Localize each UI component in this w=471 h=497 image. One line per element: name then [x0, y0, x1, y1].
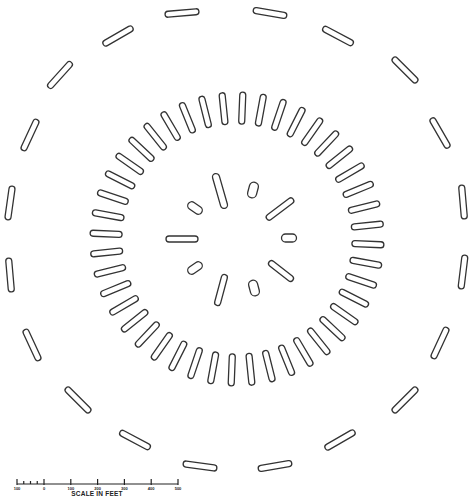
- scale-tick-label: 500: [175, 486, 182, 491]
- outer-ring-slit: [102, 25, 134, 47]
- middle-ring-slit: [351, 221, 383, 230]
- middle-ring-slit: [228, 354, 235, 386]
- middle-ring-slit: [187, 347, 203, 379]
- middle-ring-slit: [314, 130, 340, 157]
- middle-ring-slit: [319, 316, 346, 342]
- middle-ring-slit: [115, 152, 145, 175]
- scale-bar: 1000100200300400500 SCALE IN FEET: [14, 479, 182, 497]
- middle-ring-slit: [104, 170, 135, 190]
- outer-ring-slit: [391, 386, 419, 414]
- middle-ring-slit: [128, 136, 155, 162]
- middle-ring-slit: [239, 92, 246, 124]
- middle-ring-slit: [168, 340, 188, 371]
- inner-feature: [186, 260, 204, 276]
- outer-ring-slit: [458, 255, 468, 289]
- middle-ring-slit: [246, 353, 255, 385]
- inner-feature: [265, 197, 295, 222]
- middle-ring: [90, 92, 384, 386]
- inner-feature: [214, 274, 228, 306]
- middle-ring-slit: [329, 303, 359, 326]
- outer-ring-slit: [20, 118, 40, 151]
- middle-ring-slit: [348, 200, 380, 214]
- inner-feature: [282, 234, 297, 242]
- middle-ring-slit: [94, 264, 126, 278]
- middle-ring-slit: [338, 288, 369, 308]
- middle-ring-slit: [325, 145, 354, 170]
- middle-ring-slit: [120, 308, 149, 333]
- middle-ring-slit: [207, 352, 219, 385]
- outer-ring-slit: [46, 60, 73, 89]
- outer-ring-slit: [183, 461, 218, 472]
- middle-ring-slit: [301, 117, 324, 147]
- middle-ring-slit: [286, 106, 306, 137]
- middle-ring-slit: [345, 273, 377, 289]
- middle-ring-slit: [271, 99, 287, 131]
- middle-ring-slit: [143, 122, 168, 151]
- middle-ring-slit: [92, 209, 125, 221]
- outer-ring-slit: [6, 258, 15, 292]
- outer-ring-slit: [258, 460, 293, 472]
- middle-ring-slit: [90, 248, 122, 257]
- middle-ring-slit: [198, 96, 212, 128]
- outer-ring-slit: [253, 7, 288, 19]
- middle-ring-slit: [293, 337, 314, 368]
- inner-ring: [166, 173, 297, 306]
- middle-ring-slit: [109, 295, 140, 316]
- inner-feature: [248, 279, 261, 297]
- middle-ring-slit: [97, 189, 129, 205]
- middle-ring-slit: [278, 344, 296, 376]
- middle-ring-slit: [134, 321, 160, 348]
- middle-ring-slit: [350, 257, 383, 269]
- middle-ring-slit: [219, 92, 228, 124]
- outer-ring: [5, 7, 468, 472]
- middle-ring-slit: [335, 162, 366, 183]
- outer-ring-slit: [429, 117, 451, 149]
- scale-tick-label: 0: [43, 486, 46, 491]
- scale-tick-label: 400: [148, 486, 155, 491]
- inner-feature: [247, 181, 260, 199]
- outer-ring-slit: [165, 9, 199, 18]
- middle-ring-slit: [100, 280, 132, 298]
- outer-ring-slit: [22, 328, 42, 361]
- outer-ring-slit: [5, 186, 16, 221]
- outer-ring-slit: [119, 429, 152, 450]
- outer-ring-slit: [322, 25, 355, 46]
- inner-feature: [166, 236, 198, 242]
- middle-ring-slit: [342, 181, 374, 199]
- outer-ring-slit: [430, 326, 450, 359]
- scale-bar-title: SCALE IN FEET: [71, 490, 122, 497]
- outer-ring-slit: [391, 56, 419, 84]
- inner-feature: [212, 173, 229, 210]
- middle-ring-slit: [255, 94, 267, 127]
- inner-feature: [186, 200, 204, 216]
- outer-ring-slit: [64, 386, 92, 414]
- outer-ring-slit: [324, 429, 356, 451]
- middle-ring-slit: [150, 331, 173, 361]
- outer-ring-slit: [459, 185, 468, 219]
- middle-ring-slit: [352, 241, 384, 248]
- site-plan-drawing: 1000100200300400500 SCALE IN FEET: [0, 0, 471, 497]
- middle-ring-slit: [90, 230, 122, 237]
- scale-tick-label: 100: [14, 486, 21, 491]
- middle-ring-slit: [306, 327, 331, 356]
- middle-ring-slit: [262, 350, 276, 382]
- inner-feature: [267, 259, 294, 282]
- middle-ring-slit: [179, 102, 197, 134]
- middle-ring-slit: [160, 111, 181, 142]
